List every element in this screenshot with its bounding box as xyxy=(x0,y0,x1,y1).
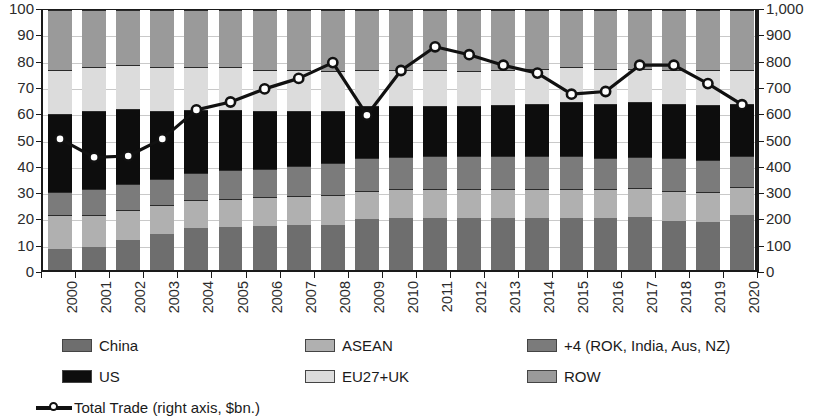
legend-item-label: US xyxy=(99,368,120,385)
swatch-china-icon xyxy=(62,339,92,352)
legend-item[interactable]: US xyxy=(62,368,120,385)
y-axis-left-tick-label: 10 xyxy=(0,238,34,253)
total-trade-marker: 2020: 640 xyxy=(737,100,746,109)
total-trade-marker: 2004: 620 xyxy=(192,105,201,114)
total-trade-marker: 2005: 650 xyxy=(226,97,235,106)
total-trade-marker: 2003: 510 xyxy=(158,134,167,143)
y-axis-left-tick-label: 90 xyxy=(0,27,34,42)
x-axis-tick xyxy=(382,272,383,278)
x-axis-tick xyxy=(348,272,349,278)
total-trade-marker: 2018: 790 xyxy=(669,61,678,70)
total-trade-marker: 2019: 720 xyxy=(703,79,712,88)
y-axis-right-tick-label: 400 xyxy=(766,159,821,174)
x-axis-tick xyxy=(723,272,724,278)
x-axis-tick-label-2009: 2009 xyxy=(371,281,387,313)
y-axis-right-tick xyxy=(759,219,764,220)
x-axis-tick xyxy=(621,272,622,278)
x-axis-tick-label-2018: 2018 xyxy=(678,281,694,313)
y-axis-right-tick-label: 300 xyxy=(766,185,821,200)
total-trade-marker: 2017: 790 xyxy=(635,61,644,70)
legend-item-label: ROW xyxy=(564,368,601,385)
total-trade-marker: 2001: 440 xyxy=(90,153,99,162)
x-axis-tick xyxy=(450,272,451,278)
chart-legend: ChinaASEAN+4 (ROK, India, Aus, NZ)USEU27… xyxy=(0,331,823,411)
legend-item[interactable]: Total Trade (right axis, $bn.) xyxy=(36,399,260,416)
legend-item[interactable]: EU27+UK xyxy=(305,368,409,385)
x-axis-tick-label-2019: 2019 xyxy=(712,281,728,313)
y-axis-left-tick-label: 70 xyxy=(0,80,34,95)
x-axis-tick-label-2005: 2005 xyxy=(235,281,251,313)
y-axis-right-tick xyxy=(759,193,764,194)
total-trade-marker: 2013: 790 xyxy=(499,61,508,70)
legend-item-label: China xyxy=(99,337,138,354)
y-axis-left-tick-label: 20 xyxy=(0,211,34,226)
x-axis-tick-label-2008: 2008 xyxy=(337,281,353,313)
x-axis-tick-label-2013: 2013 xyxy=(507,281,523,313)
legend-item-label: +4 (ROK, India, Aus, NZ) xyxy=(564,337,730,354)
x-axis-tick-label-2006: 2006 xyxy=(269,281,285,313)
x-axis-tick xyxy=(41,272,42,278)
legend-item[interactable]: +4 (ROK, India, Aus, NZ) xyxy=(527,337,730,354)
y-axis-right-tick-label: 700 xyxy=(766,80,821,95)
total-trade-marker: 2002: 445 xyxy=(124,151,133,160)
x-axis-tick-label-2020: 2020 xyxy=(746,281,762,313)
x-axis-tick xyxy=(587,272,588,278)
x-axis: 2000200120022003200420052006200720082009… xyxy=(0,272,823,330)
x-axis-tick xyxy=(143,272,144,278)
y-axis-left-tick-label: 30 xyxy=(0,185,34,200)
total-trade-marker: 2006: 700 xyxy=(260,84,269,93)
x-axis-tick xyxy=(280,272,281,278)
total-trade-marker: 2000: 510 xyxy=(55,134,64,143)
x-axis-tick xyxy=(246,272,247,278)
x-axis-tick-label-2003: 2003 xyxy=(166,281,182,313)
y-axis-right-tick-label: 500 xyxy=(766,133,821,148)
swatch-eu-icon xyxy=(305,370,335,383)
x-axis-tick-label-2012: 2012 xyxy=(473,281,489,313)
x-axis-tick-label-2017: 2017 xyxy=(644,281,660,313)
swatch-us-icon xyxy=(62,370,92,383)
x-axis-tick xyxy=(314,272,315,278)
x-axis-tick-label-2010: 2010 xyxy=(405,281,421,313)
y-axis-left-tick-label: 100 xyxy=(0,1,34,16)
total-trade-marker: 2015: 680 xyxy=(567,90,576,99)
y-axis-right-tick-label: 800 xyxy=(766,54,821,69)
legend-item[interactable]: ASEAN xyxy=(305,337,393,354)
y-axis-right-tick xyxy=(759,9,764,10)
legend-item-label: Total Trade (right axis, $bn.) xyxy=(74,399,260,416)
total-trade-marker: 2010: 770 xyxy=(396,66,405,75)
y-axis-right-tick-label: 200 xyxy=(766,211,821,226)
line-marker-icon xyxy=(36,401,72,414)
x-axis-tick-label-2016: 2016 xyxy=(610,281,626,313)
x-axis-tick-label-2000: 2000 xyxy=(64,281,80,313)
y-axis-right-tick-label: 100 xyxy=(766,238,821,253)
y-axis-left-tick-label: 40 xyxy=(0,159,34,174)
x-axis-tick xyxy=(689,272,690,278)
y-axis-right-tick xyxy=(759,167,764,168)
x-axis-tick xyxy=(177,272,178,278)
x-axis-tick-label-2007: 2007 xyxy=(303,281,319,313)
y-axis-right-tick xyxy=(759,62,764,63)
swatch-row-icon xyxy=(527,370,557,383)
legend-item[interactable]: ROW xyxy=(527,368,601,385)
swatch-asean-icon xyxy=(305,339,335,352)
y-axis-right-tick-label: 900 xyxy=(766,27,821,42)
y-axis-right-tick-label: 600 xyxy=(766,106,821,121)
y-axis-left-tick-label: 60 xyxy=(0,106,34,121)
y-axis-right-tick-label: 1,000 xyxy=(766,1,821,16)
x-axis-tick xyxy=(655,272,656,278)
y-axis-right-tick xyxy=(759,246,764,247)
y-axis-right-tick xyxy=(759,141,764,142)
legend-item-label: EU27+UK xyxy=(342,368,409,385)
x-axis-tick-label-2015: 2015 xyxy=(575,281,591,313)
total-trade-marker: 2009: 600 xyxy=(362,111,371,120)
total-trade-marker: 2011: 860 xyxy=(431,42,440,51)
y-axis-right-tick xyxy=(759,35,764,36)
plot-wrapper: 0102030405060708090100 01002003004005006… xyxy=(0,0,823,290)
y-axis-right-tick xyxy=(759,88,764,89)
total-trade-line: 2000: 5102001: 4402002: 4452003: 5102004… xyxy=(43,10,759,273)
x-axis-tick xyxy=(211,272,212,278)
x-axis-tick-label-2001: 2001 xyxy=(98,281,114,313)
y-axis-left-tick-label: 80 xyxy=(0,54,34,69)
legend-item[interactable]: China xyxy=(62,337,138,354)
